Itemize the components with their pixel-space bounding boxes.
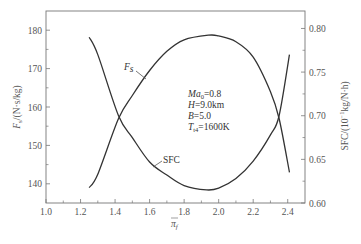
x-tick-label: 1.2: [75, 207, 87, 217]
x-tick-label: 2.0: [213, 207, 225, 217]
x-tick-label: 2.2: [247, 207, 259, 217]
right-y-axis-label: SFC/(10−1kg/N·h): [338, 81, 351, 150]
x-tick-label: 2.4: [282, 207, 294, 217]
right-y-tick-label: 0.70: [309, 111, 326, 121]
fs-leader-line: [136, 71, 146, 79]
x-tick-label: 1.8: [178, 207, 190, 217]
x-axis-ticks: 1.01.21.41.61.82.02.22.4: [40, 199, 294, 217]
left-y-tick-label: 150: [28, 141, 43, 151]
condition-b: B=5.0: [188, 111, 211, 121]
left-y-tick-label: 140: [28, 179, 43, 189]
plot-border: [46, 11, 305, 203]
right-y-tick-label: 0.75: [309, 68, 326, 78]
left-y-tick-label: 180: [28, 26, 43, 36]
left-y-axis-label: Fs/(N·s/kg): [12, 85, 24, 129]
condition-h: H=9.0km: [187, 100, 225, 110]
x-tick-label: 1.0: [40, 207, 52, 217]
plot-frame: [46, 11, 305, 203]
conditions-annotation: Ma0=0.8 H=9.0km B=5.0 Tt4=1600K: [187, 89, 230, 133]
x-tick-label: 1.4: [109, 207, 121, 217]
x-tick-label: 1.6: [144, 207, 156, 217]
condition-t: Tt4=1600K: [188, 122, 230, 133]
left-y-tick-label: 170: [28, 64, 43, 74]
right-y-tick-label: 0.60: [309, 199, 326, 209]
fs-curve-label: Fs: [123, 62, 134, 74]
x-axis-label: πf: [171, 219, 179, 231]
sfc-leader-line: [153, 161, 162, 167]
chart: 1.01.21.41.61.82.02.22.4 140150160170180…: [0, 0, 361, 244]
condition-ma: Ma0=0.8: [187, 89, 221, 100]
left-y-axis-ticks: 140150160170180: [28, 26, 50, 190]
right-y-tick-label: 0.80: [309, 24, 326, 34]
sfc-curve-label: SFC: [163, 155, 180, 165]
left-y-tick-label: 160: [28, 103, 43, 113]
right-y-tick-label: 0.65: [309, 155, 326, 165]
